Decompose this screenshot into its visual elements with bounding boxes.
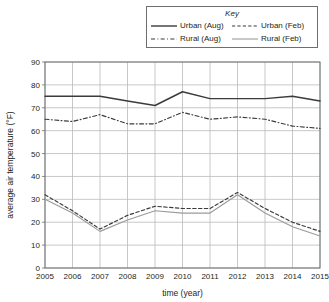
- x-tick-label: 2011: [201, 272, 219, 281]
- y-tick-label: 50: [31, 150, 40, 159]
- x-axis-title: time (year): [162, 288, 203, 298]
- chart-plot-area: 0102030405060708090 20052006200720082009…: [0, 0, 329, 302]
- x-tick-label: 2007: [91, 272, 109, 281]
- x-tick-label: 2010: [174, 272, 192, 281]
- x-tick-label: 2015: [311, 272, 329, 281]
- x-tick-label: 2014: [284, 272, 302, 281]
- x-tick-label: 2009: [146, 272, 164, 281]
- y-tick-label: 30: [31, 195, 40, 204]
- x-tick-label: 2012: [229, 272, 247, 281]
- y-tick-label: 40: [31, 172, 40, 181]
- y-tick-label: 90: [31, 58, 40, 67]
- y-tick-label: 20: [31, 218, 40, 227]
- chart-svg: 0102030405060708090 20052006200720082009…: [0, 0, 329, 302]
- y-axis-tick-labels: 0102030405060708090: [31, 58, 45, 273]
- x-axis-tick-labels: 2005200620072008200920102011201220132014…: [36, 272, 329, 281]
- y-tick-label: 10: [31, 241, 40, 250]
- x-tick-label: 2005: [36, 272, 54, 281]
- y-axis-title: average air temperature (°F): [5, 111, 15, 218]
- y-tick-label: 60: [31, 127, 40, 136]
- chart-gridlines: [45, 62, 320, 268]
- x-tick-label: 2006: [64, 272, 82, 281]
- x-tick-label: 2013: [256, 272, 274, 281]
- y-tick-label: 70: [31, 104, 40, 113]
- x-tick-label: 2008: [119, 272, 137, 281]
- temperature-line-chart-figure: Key Urban (Aug) Urban (Feb) Rural (Au: [0, 0, 329, 302]
- y-tick-label: 80: [31, 81, 40, 90]
